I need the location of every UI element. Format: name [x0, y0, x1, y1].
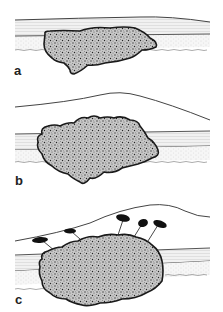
panel-c-illustration — [0, 195, 223, 312]
panel-label-c: c — [15, 293, 22, 306]
panel-a-illustration — [0, 0, 223, 100]
marker-connector — [148, 225, 158, 241]
marker-connector — [118, 220, 123, 235]
panel-b: b — [0, 90, 223, 200]
mass — [39, 234, 163, 305]
panel-label-a: a — [14, 64, 21, 77]
mass — [44, 27, 156, 74]
marker-2 — [64, 229, 76, 234]
marker-5 — [152, 218, 168, 229]
marker-4 — [137, 218, 149, 228]
mass — [38, 116, 159, 183]
panel-b-illustration — [0, 90, 223, 200]
panel-a: a — [0, 0, 223, 100]
panel-label-b: b — [15, 174, 23, 187]
marker-3 — [115, 213, 130, 223]
elevated-surface-line — [15, 93, 210, 120]
panel-c: c — [0, 195, 223, 312]
